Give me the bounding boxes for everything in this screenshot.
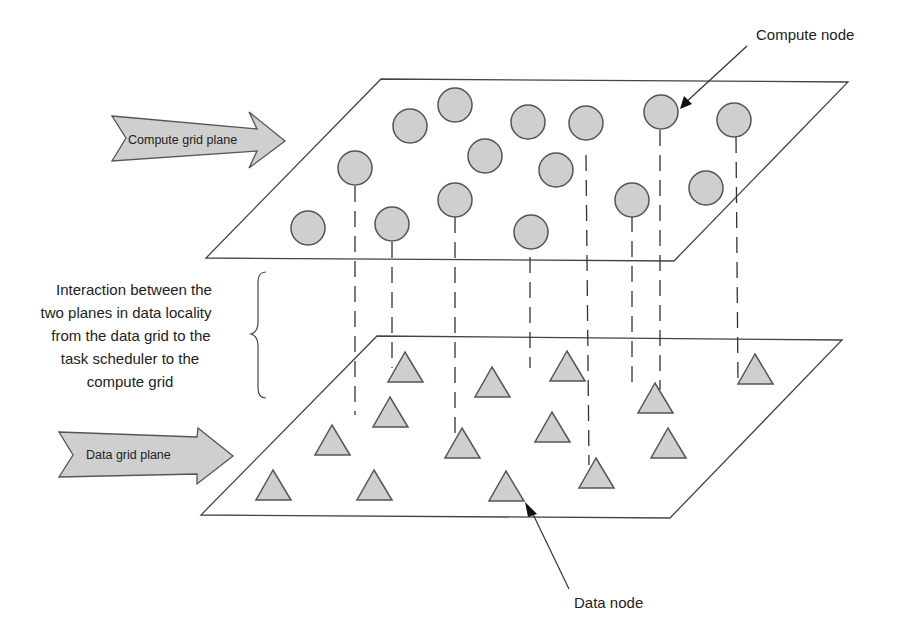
interaction-description: Interaction between the two planes in da…: [41, 281, 212, 390]
compute-node[interactable]: [338, 151, 372, 185]
compute-node[interactable]: [539, 153, 573, 187]
interaction-brace-icon: [251, 272, 266, 398]
svg-text:task scheduler to the: task scheduler to the: [61, 350, 199, 367]
data-grid-plane-label: Data grid plane: [86, 448, 171, 462]
compute-node[interactable]: [514, 215, 548, 249]
compute-node[interactable]: [468, 139, 502, 173]
compute-node[interactable]: [438, 88, 472, 122]
svg-text:Interaction between the: Interaction between the: [56, 281, 212, 298]
compute-grid-plane-arrow: Compute grid plane: [112, 112, 285, 168]
compute-node[interactable]: [717, 103, 751, 137]
compute-node[interactable]: [644, 95, 678, 129]
compute-node[interactable]: [291, 211, 325, 245]
compute-node[interactable]: [393, 109, 427, 143]
compute-node[interactable]: [511, 105, 545, 139]
compute-node[interactable]: [375, 207, 409, 241]
compute-grid-plane-label: Compute grid plane: [128, 133, 237, 147]
compute-node[interactable]: [615, 183, 649, 217]
svg-text:two planes in data locality: two planes in data locality: [41, 304, 212, 321]
compute-node[interactable]: [689, 171, 723, 205]
data-grid-plane: [201, 336, 842, 518]
diagram-canvas: Compute grid plane Data grid plane Compu…: [0, 0, 898, 628]
compute-node-label: Compute node: [756, 26, 854, 43]
data-grid-plane-arrow: Data grid plane: [59, 428, 233, 484]
svg-text:from the data grid to the: from the data grid to the: [51, 327, 210, 344]
compute-node[interactable]: [438, 183, 472, 217]
compute-node[interactable]: [569, 106, 603, 140]
data-node-label: Data node: [574, 594, 643, 611]
svg-text:compute grid: compute grid: [87, 373, 174, 390]
